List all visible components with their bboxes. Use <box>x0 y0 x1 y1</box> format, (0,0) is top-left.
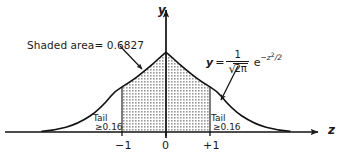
y-axis-label: y <box>158 4 166 16</box>
formula-denominator: √ 2π <box>226 62 248 74</box>
z-axis-label: z <box>328 124 335 136</box>
sqrt-radicand: 2π <box>234 63 246 74</box>
x-tick-label-minus-1: −1 <box>115 140 132 151</box>
shaded-area-label: Shaded area= 0.6827 <box>27 40 144 51</box>
tail-label-right-value: ≥0.16 <box>211 123 241 132</box>
formula-equals-sign: = <box>215 57 224 68</box>
curve-canvas <box>0 0 344 163</box>
formula-numerator: 1 <box>231 50 243 61</box>
formula-exponent: −z2/2 <box>261 54 282 62</box>
sqrt-overbar <box>233 63 247 64</box>
normal-distribution-figure: y z Shaded area= 0.6827 −1 0 +1 Tail ≥0.… <box>0 0 344 163</box>
tail-label-left-value: ≥0.16 <box>93 123 123 132</box>
x-tick-label-plus-1: +1 <box>203 140 220 151</box>
x-tick-label-zero: 0 <box>162 140 169 151</box>
formula-fraction: 1 √ 2π <box>226 50 248 74</box>
formula-variable-y: y <box>206 57 213 68</box>
density-formula: y = 1 √ 2π e −z2/2 <box>206 50 282 74</box>
sqrt-icon: √ <box>228 63 236 75</box>
tail-label-left: Tail ≥0.16 <box>93 114 123 133</box>
sqrt-group: √ 2π <box>228 63 246 74</box>
formula-e-base: e <box>254 57 261 68</box>
formula-exponent-divisor: /2 <box>275 53 282 62</box>
formula-exponent-minus-z: −z <box>261 53 271 62</box>
tail-label-right: Tail ≥0.16 <box>211 114 241 133</box>
formula-exponential: e −z2/2 <box>254 57 282 68</box>
formula-exponent-square: 2 <box>271 51 275 58</box>
